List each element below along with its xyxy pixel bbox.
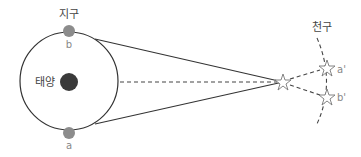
star-a-prime-icon — [319, 60, 335, 76]
dashed-line-to-a-prime — [290, 70, 320, 79]
sightline-bottom — [95, 82, 283, 124]
dashed-line-to-b-prime — [290, 85, 320, 95]
sightline-top — [95, 39, 283, 82]
image-b-prime-label: b' — [337, 92, 346, 103]
star-b-prime-icon — [319, 89, 335, 105]
near-star-icon — [275, 74, 291, 90]
celestial-sphere-arc — [317, 38, 327, 124]
position-a-label: a — [66, 140, 72, 151]
earth-position-b — [63, 25, 75, 37]
position-b-label: b — [66, 39, 72, 50]
sun-label: 태양 — [35, 76, 55, 89]
parallax-diagram: 지구 b a 태양 천구 a' b' — [0, 0, 361, 157]
sun — [60, 73, 78, 91]
earth-label: 지구 — [59, 8, 79, 21]
celestial-sphere-label: 천구 — [312, 20, 332, 34]
earth-position-a — [63, 127, 75, 139]
image-a-prime-label: a' — [337, 64, 346, 75]
